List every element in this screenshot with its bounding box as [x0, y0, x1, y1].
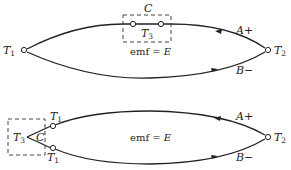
node-c-left — [130, 21, 135, 26]
label-t3: T3 — [141, 27, 153, 41]
label-t1: T1 — [3, 44, 15, 58]
label-t3-bottom: T3 — [13, 131, 25, 145]
label-t2-bottom: T2 — [274, 131, 286, 145]
label-t1-lower: T1 — [47, 151, 59, 165]
label-c-bottom: C — [36, 131, 45, 144]
node-t2-bottom — [265, 134, 270, 139]
node-t1 — [21, 47, 26, 52]
label-b-minus: B− — [235, 64, 253, 77]
label-t2: T2 — [274, 44, 286, 58]
bottom-diagram: T1 T1 T3 C T2 emf = E A+ B− — [8, 110, 286, 165]
node-t1-upper — [50, 123, 55, 128]
label-t1-upper: T1 — [50, 110, 62, 124]
label-c: C — [144, 2, 153, 15]
label-b-minus-bottom: B− — [235, 151, 253, 164]
arrow-left-icon — [215, 29, 222, 34]
node-c-right — [158, 21, 163, 26]
label-emf: emf = E — [130, 46, 172, 57]
label-emf-bottom: emf = E — [130, 132, 172, 143]
top-diagram: T1 T2 C T3 emf = E A+ B− — [3, 2, 286, 78]
label-a-plus-bottom: A+ — [235, 110, 253, 123]
node-t1-lower — [50, 145, 55, 150]
thermocouple-diagram: T1 T2 C T3 emf = E A+ B− — [0, 0, 291, 170]
node-t2 — [265, 47, 270, 52]
label-a-plus: A+ — [235, 24, 253, 37]
